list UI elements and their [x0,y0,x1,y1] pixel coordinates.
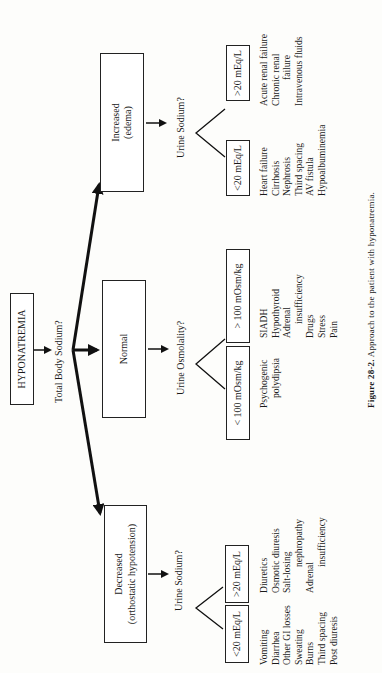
normal-low-threshold-box: < 100 mOsm/kg [226,346,250,440]
cause-item: failure [281,34,293,106]
cause-item: Third spacing [316,605,328,665]
cause-item: Stress [316,274,328,338]
question-urine-sodium-increased: Urine Sodium? [176,97,186,158]
increased-high-causes: Acute renal failure Chronic renal failur… [258,34,304,106]
increased-subtitle: (edema) [122,106,135,139]
cause-item: Heart failure [258,125,270,196]
normal-high-causes: SIADH Hypothyroid Adrenal insufficiency … [258,274,339,338]
cause-item: Nephrosis [281,125,293,196]
cause-item: Chronic renal [270,34,282,106]
decreased-low-causes: Vomiting Diarrhea Other GI losses Sweati… [258,605,339,665]
branch-box-normal: Normal [102,280,146,418]
normal-high-label: > 100 mOsm/kg [232,263,245,328]
decreased-high-label: >20 mEq/L [231,551,244,597]
cause-item: Cirrhosis [270,125,282,196]
root-label: HYPONATREMIA [16,310,29,389]
decreased-low-threshold-box: <20 mEq/L [225,605,249,663]
cause-item: Salt-losing [281,517,293,593]
question-urine-sodium-decreased: Urine Sodium? [174,550,184,611]
decreased-high-threshold-box: >20 mEq/L [225,545,249,603]
cause-item: Hypothyroid [270,274,282,338]
cause-item: Vomiting [258,605,270,665]
question-total-body-sodium: Total Body Sodium? [54,320,64,403]
normal-low-causes: Psychogenic polydipsia [258,358,281,408]
normal-low-label: < 100 mOsm/kg [232,360,245,425]
hyponatremia-flowchart: HYPONATREMIA Total Body Sodium? Decrease… [0,0,382,673]
increased-title: Increased [110,103,123,141]
root-box-hyponatremia: HYPONATREMIA [10,293,34,405]
cause-item: Third spacing [293,125,305,196]
cause-item: AV fistula [304,125,316,196]
cause-item: Hypoalbuminemia [316,125,328,196]
figure-caption: Figure 28-2. Approach to the patient wit… [366,192,376,408]
increased-high-label: >20 mEq/L [232,50,245,96]
cause-item: Pain [328,274,340,338]
figure-caption-text: Approach to the patient with hyponatremi… [366,192,376,357]
cause-item: polydipsia [270,358,282,408]
cause-item: SIADH [258,274,270,338]
cause-item: Adrenal [304,517,316,593]
increased-low-label: <20 mEq/L [232,145,245,191]
decreased-title: Decreased [113,553,126,595]
cause-item: nephropathy [293,517,305,593]
cause-item: Osmotic diuresis [270,517,282,593]
cause-item: Diarrhea [270,605,282,665]
cause-item: Diuretics [258,517,270,593]
cause-item: Other GI losses [281,605,293,665]
cause-item: insufficiency [293,274,305,338]
cause-item: Post diuresis [328,605,340,665]
cause-item: Adrenal [281,274,293,338]
decreased-high-causes: Diuretics Osmotic diuresis Salt-losing n… [258,517,328,593]
normal-title: Normal [118,334,131,365]
cause-item: Intravenous fluids [293,34,305,106]
cause-item: Acute renal failure [258,34,270,106]
figure-number: Figure 28-2. [366,359,376,408]
branch-box-increased: Increased (edema) [100,53,144,192]
decreased-subtitle: (orthostatic hypotension) [126,524,139,624]
normal-high-threshold-box: > 100 mOsm/kg [226,249,250,343]
cause-item: Burns [304,605,316,665]
increased-high-threshold-box: >20 mEq/L [226,45,250,101]
cause-item: Sweating [293,605,305,665]
decreased-low-label: <20 mEq/L [231,611,244,657]
cause-item: Drugs [304,274,316,338]
question-urine-osmolality: Urine Osmolality? [176,321,186,395]
increased-low-threshold-box: <20 mEq/L [226,140,250,196]
cause-item: Psychogenic [258,358,270,408]
cause-item: insufficiency [316,517,328,593]
branch-box-decreased: Decreased (orthostatic hypotension) [104,505,147,643]
increased-low-causes: Heart failure Cirrhosis Nephrosis Third … [258,125,328,196]
